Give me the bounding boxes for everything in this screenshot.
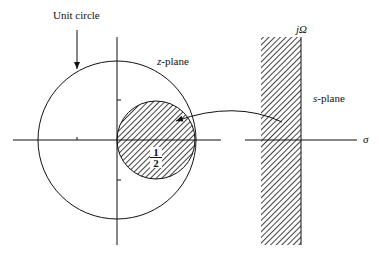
z-plane [13, 30, 221, 245]
sigma-label: σ [363, 133, 368, 145]
s-plane-label: s-plane [313, 92, 345, 104]
half-label: 1 2 [150, 147, 162, 168]
s-plane-suffix: -plane [317, 92, 344, 104]
unit-circle-label: Unit circle [53, 9, 100, 21]
left-half-strip [261, 37, 301, 245]
mapping-diagram [0, 0, 379, 255]
s-plane [245, 37, 357, 245]
z-plane-suffix: -plane [161, 55, 188, 67]
z-plane-label: z-plane [157, 55, 189, 67]
half-denominator: 2 [150, 158, 162, 168]
j-omega-label: jΩ [296, 23, 307, 35]
